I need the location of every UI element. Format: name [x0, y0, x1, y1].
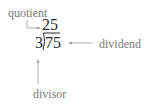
dividend-arrow-icon: [68, 42, 92, 45]
division-bracket: [43, 33, 60, 50]
quotient-arrow-icon: [27, 20, 41, 30]
divisor-arrow-icon: [37, 59, 40, 84]
diagram-lines: [0, 0, 147, 112]
